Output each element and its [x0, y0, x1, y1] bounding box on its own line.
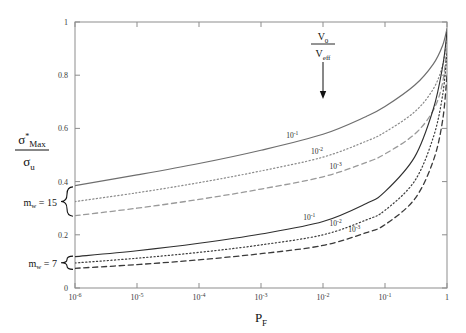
- y-tick-label-4: 0.8: [58, 71, 68, 80]
- y-axis-title-denominator: σu: [23, 154, 35, 172]
- x-tick-label-6: 1: [445, 293, 449, 302]
- curve-label-mw15-1e-3: 10-3: [330, 161, 342, 171]
- brace-mw15: [61, 187, 73, 216]
- x-tick-label-3: 10-3: [255, 292, 268, 303]
- y-tick-label-0: 0: [64, 284, 68, 293]
- mw7-label: mw = 7: [29, 258, 57, 272]
- x-tick-label-1: 10-5: [131, 292, 144, 303]
- figure-container: 10-610-510-410-310-210-1100.20.40.60.811…: [0, 0, 466, 333]
- curve-mw15-1e-2: [75, 38, 447, 202]
- y-tick-label-3: 0.6: [58, 124, 68, 133]
- curves-group: [75, 29, 447, 269]
- curve-label-mw15-1e-1: 10-1: [286, 130, 298, 140]
- curve-mw15-1e-3: [75, 46, 447, 216]
- curve-mw7-1e-2: [75, 53, 447, 263]
- plot-frame: [75, 22, 447, 288]
- x-tick-label-4: 10-2: [317, 292, 330, 303]
- y-tick-label-5: 1: [64, 18, 68, 27]
- brace-mw7: [61, 256, 73, 269]
- x-tick-label-5: 10-1: [379, 292, 392, 303]
- chart-canvas: 10-610-510-410-310-210-1100.20.40.60.811…: [0, 0, 466, 333]
- y-tick-label-1: 0.2: [58, 231, 68, 240]
- curve-mw7-1e-1: [75, 32, 447, 256]
- curve-label-mw15-1e-2: 10-2: [311, 146, 323, 156]
- x-axis-title: PF: [255, 310, 267, 328]
- v0-veff-arrow-head: [320, 91, 326, 99]
- y-axis-title-numerator: σ*Max: [18, 132, 46, 149]
- mw15-label: mw = 15: [24, 197, 57, 211]
- y-tick-label-2: 0.4: [58, 178, 68, 187]
- curve-label-mw7-1e-2: 10-2: [330, 218, 342, 228]
- curve-label-mw7-1e-1: 10-1: [303, 212, 315, 222]
- x-tick-label-2: 10-4: [193, 292, 206, 303]
- curve-mw7-1e-3: [75, 75, 447, 268]
- x-tick-label-0: 10-6: [69, 292, 82, 303]
- v0-veff-numerator: V0: [318, 31, 329, 45]
- curve-mw15-1e-1: [75, 29, 447, 186]
- v0-veff-denominator: Veff: [316, 48, 332, 62]
- curve-label-mw7-1e-3: 10-3: [348, 224, 360, 234]
